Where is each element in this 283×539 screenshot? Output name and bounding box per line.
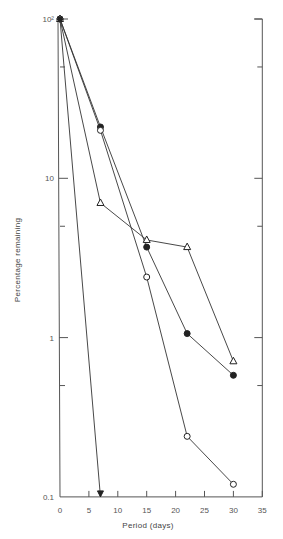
y-axis-title: Percentage remaining [13,218,22,302]
chart: 0.111010²05101520253035Period (days)Perc… [0,0,283,539]
series-line [60,19,100,497]
x-tick-label: 15 [142,506,151,515]
series-filled-circle [57,16,236,378]
open-circle-marker [184,433,190,439]
labels: 0.111010²05101520253035Period (days)Perc… [13,15,267,530]
series-open-circle [57,16,236,487]
x-tick-label: 30 [229,506,238,515]
x-tick-label: 10 [113,506,122,515]
open-triangle-marker [143,236,150,243]
series-line [60,19,233,361]
origin-marker [58,17,63,22]
x-tick-label: 0 [58,506,63,515]
open-circle-marker [230,481,236,487]
series-layer [57,15,237,497]
y-tick-label: 0.1 [43,493,55,502]
series-open-triangle [57,15,237,364]
x-tick-label: 25 [200,506,209,515]
open-triangle-marker [97,199,104,206]
open-circle-marker [144,274,150,280]
filled-circle-marker [230,372,236,378]
open-circle-marker [97,127,103,133]
x-tick-label: 35 [258,506,267,515]
axes [58,19,262,497]
filled-circle-marker [144,244,150,250]
y-tick-label: 10² [42,15,54,24]
x-tick-label: 20 [171,506,180,515]
filled-circle-marker [184,331,190,337]
x-axis-title: Period (days) [122,521,174,530]
filled-triangle-down-marker [97,491,103,497]
y-tick-label: 1 [50,334,55,343]
series-filled-triangle-down [60,19,103,497]
y-axis-left [58,19,60,497]
x-tick-label: 5 [87,506,92,515]
open-triangle-marker [230,357,237,364]
y-tick-label: 10 [45,174,54,183]
